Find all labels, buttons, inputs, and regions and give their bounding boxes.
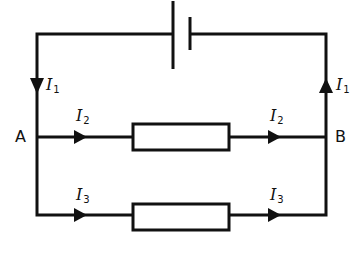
- arrow-right-icon: [74, 208, 87, 222]
- circuit-diagram: [0, 0, 360, 253]
- arrow-right-icon: [268, 130, 281, 144]
- current-label-i3-in: I3: [76, 187, 90, 205]
- arrow-up-icon: [319, 78, 333, 93]
- current-label-i1-right: I1: [336, 77, 350, 95]
- resistor-top: [133, 124, 229, 150]
- wire-top-right: [190, 34, 326, 137]
- current-label-i1-left: I1: [46, 77, 60, 95]
- current-label-i3-out: I3: [270, 187, 284, 205]
- arrow-right-icon: [268, 208, 281, 222]
- node-label-b: B: [335, 129, 346, 145]
- node-label-a: A: [15, 129, 26, 145]
- arrow-right-icon: [74, 130, 87, 144]
- current-label-i2-in: I2: [76, 108, 90, 126]
- current-label-i2-out: I2: [270, 108, 284, 126]
- arrow-down-icon: [30, 78, 44, 94]
- resistor-bottom: [133, 204, 229, 230]
